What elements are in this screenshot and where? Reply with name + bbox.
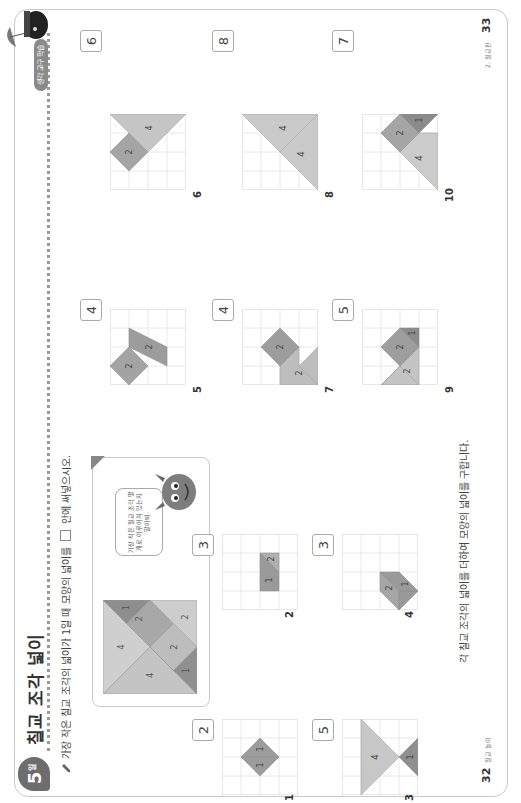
piece-label: 2: [267, 556, 276, 561]
pencil-icon: [61, 763, 71, 773]
day-badge: 5일: [18, 757, 50, 791]
monster-mascot-icon: [151, 468, 201, 516]
tangram-label: 1: [181, 668, 191, 673]
tangram-label: 2: [169, 644, 179, 649]
piece-label: 2: [403, 368, 412, 373]
right-footer-label: 2. 칠교판: [483, 42, 492, 68]
left-page-number: 32: [480, 768, 493, 783]
day-badge-number: 5: [24, 772, 45, 785]
problem-number: 9: [444, 386, 455, 393]
problem-number: 8: [324, 191, 335, 198]
dotted-divider: [47, 33, 50, 751]
answer-box[interactable]: 2: [192, 719, 214, 741]
piece-label: 2: [145, 344, 154, 349]
example-box: 4 4 2 2 2 1 1 가장 작은 칠교 조각 몇 개로 이루어져 있는지 …: [92, 457, 210, 707]
piece-label: 2: [295, 370, 304, 375]
worksheet-spread: 5일 칠교 조각 넓이 생각 교구 학습 가장 작은 칠교 조각의 넓이가 1일…: [0, 0, 521, 803]
piece-label: 1: [256, 746, 265, 751]
piece-label: 2: [125, 149, 134, 154]
piece-label: 1: [406, 754, 415, 759]
answer-box[interactable]: 4: [80, 299, 102, 321]
grid-figure: 2 4: [110, 114, 186, 190]
umbrella-mascot-icon: [2, 7, 52, 51]
piece-label: 1: [256, 762, 265, 767]
piece-label: 2: [396, 130, 405, 135]
piece-label: 4: [296, 151, 306, 157]
problem-number: 4: [404, 611, 415, 618]
piece-label: 1: [265, 577, 274, 582]
piece-label: 2: [385, 585, 394, 590]
piece-label: 2: [396, 344, 405, 349]
answer-box[interactable]: 5: [312, 719, 334, 741]
answer-box[interactable]: 6: [80, 30, 102, 52]
piece-label: 4: [370, 754, 380, 760]
problem-number: 6: [192, 191, 203, 198]
tangram-label: 4: [116, 644, 126, 649]
grid-figure: 2 2 1: [362, 309, 438, 385]
problem-number: 5: [192, 386, 203, 393]
left-footer-label: 칠교 놀이: [483, 737, 492, 763]
piece-label: 4: [145, 125, 154, 130]
piece-label: 4: [278, 125, 288, 131]
problem-number: 7: [324, 386, 335, 393]
instruction-text-before: 가장 작은 칠교 조각의 넓이가 1일 때 모양의 넓이를: [58, 547, 73, 759]
piece-label: 2: [276, 344, 285, 349]
instruction: 가장 작은 칠교 조각의 넓이가 1일 때 모양의 넓이를 안에 써넣으시오.: [58, 455, 73, 773]
piece-label: 4: [414, 155, 424, 161]
piece-label: 2: [125, 363, 134, 368]
piece-label: 1: [401, 581, 410, 586]
answer-box[interactable]: 4: [212, 299, 234, 321]
piece-label: 1: [408, 330, 417, 335]
answer-box[interactable]: 8: [212, 30, 234, 52]
grid-figure: 4 2 1: [362, 114, 438, 190]
grid-figure: 2 2: [110, 309, 186, 385]
grid-figure: 1 2: [222, 534, 298, 610]
grid-figure: 2 1: [342, 534, 418, 610]
hint-text: 각 칠교 조각의 넓이를 더하여 모양의 넓이를 구합니다.: [456, 440, 471, 663]
problem-number: 10: [444, 188, 455, 202]
tangram-label: 4: [145, 673, 155, 678]
answer-box[interactable]: 5: [332, 299, 354, 321]
problem-number: 2: [284, 611, 295, 618]
day-badge-suffix: 일: [26, 764, 37, 771]
answer-box[interactable]: 3: [312, 534, 334, 556]
answer-box[interactable]: 7: [332, 30, 354, 52]
right-page-number: 33: [480, 18, 493, 33]
grid-figure: 1 1: [222, 719, 298, 795]
piece-label: 1: [415, 117, 424, 122]
grid-figure: 4 1: [342, 719, 418, 795]
tangram-label: 1: [121, 605, 131, 610]
answer-box[interactable]: 3: [192, 534, 214, 556]
page-fold-icon: [91, 456, 105, 470]
grid-figure: 2 2: [242, 309, 318, 385]
problem-number: 1: [284, 794, 295, 801]
instruction-text-after: 안에 써넣으시오.: [58, 455, 73, 524]
tangram-label: 2: [180, 614, 190, 619]
tangram-square: 4 4 2 2 2 1 1: [103, 600, 197, 694]
page-title: 칠교 조각 넓이: [22, 633, 47, 745]
grid-figure: 4 4: [242, 114, 318, 190]
answer-blank-icon: [60, 530, 71, 541]
problem-number: 3: [404, 794, 415, 801]
tangram-label: 2: [134, 616, 144, 621]
